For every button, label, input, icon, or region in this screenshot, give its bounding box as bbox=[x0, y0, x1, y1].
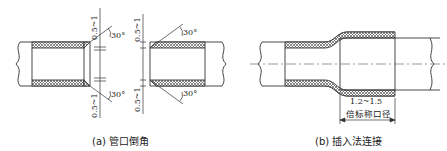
caption-figure-a: (a) 管口倒角 bbox=[92, 133, 149, 148]
dim-label-a-top-right: 0.5~1 bbox=[133, 17, 142, 42]
figure-a-right-dimensions bbox=[140, 14, 183, 114]
caption-figure-b: (b) 插入法连接 bbox=[315, 133, 382, 148]
dim-label-a-top-left: 0.5~1 bbox=[90, 15, 99, 40]
angle-label-a-top-left: 30° bbox=[111, 31, 125, 40]
figure-a-left-pipe bbox=[16, 42, 90, 86]
diagram-canvas: 0.5~1 0.5~1 0.5~1 0.5~1 30° 30° 30° 30° … bbox=[0, 0, 447, 151]
angle-label-a-top-right: 30° bbox=[183, 28, 197, 37]
dim-label-a-bottom-right: 0.5~1 bbox=[133, 87, 142, 112]
figure-a-right-pipe bbox=[150, 42, 226, 86]
angle-label-a-bottom-right: 30° bbox=[183, 89, 197, 98]
angle-label-a-bottom-left: 30° bbox=[111, 90, 125, 99]
dim-label-b-unit: 倍标称口径 bbox=[346, 107, 391, 119]
dim-label-b-value: 1.2~1.5 bbox=[350, 97, 382, 106]
dim-label-a-bottom-left: 0.5~1 bbox=[90, 93, 99, 118]
